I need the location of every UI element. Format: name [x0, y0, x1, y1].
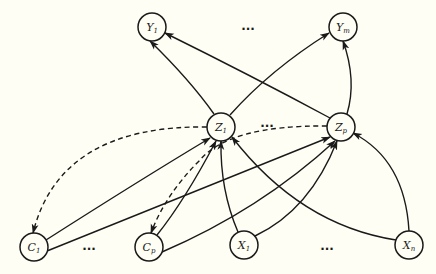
dashed-edges — [33, 126, 327, 233]
ellipsis-y: ... — [241, 19, 255, 33]
node-x1: X1 — [230, 231, 258, 259]
edges-to-z — [46, 133, 409, 252]
edge-cp-z1 — [157, 141, 216, 235]
node-zp: Zp — [327, 113, 355, 141]
edge-z1-c1-dashed — [33, 127, 207, 233]
causal-diagram: ... ... ... ... Y1 Ym Z1 Zp C1 Cp X1 Xn — [0, 0, 436, 274]
edge-zp-ym — [343, 41, 351, 114]
node-cp: Cp — [135, 233, 163, 261]
edge-xn-z1 — [232, 137, 396, 240]
edge-c1-z1 — [46, 138, 210, 240]
edges-z-to-y — [150, 33, 351, 118]
edge-xn-zp — [353, 133, 409, 231]
edge-zp-cp-dashed — [151, 126, 327, 233]
node-z1: Z1 — [207, 113, 235, 141]
node-y1: Y1 — [138, 13, 166, 41]
node-xn: Xn — [395, 231, 423, 259]
ellipsis-c: ... — [82, 239, 96, 253]
ellipsis-x: ... — [320, 239, 334, 253]
ellipsis-z: ... — [260, 116, 274, 130]
node-ym: Ym — [329, 13, 357, 41]
edge-x1-zp — [255, 141, 337, 236]
edge-zp-y1 — [165, 33, 330, 118]
node-c1: C1 — [20, 233, 48, 261]
